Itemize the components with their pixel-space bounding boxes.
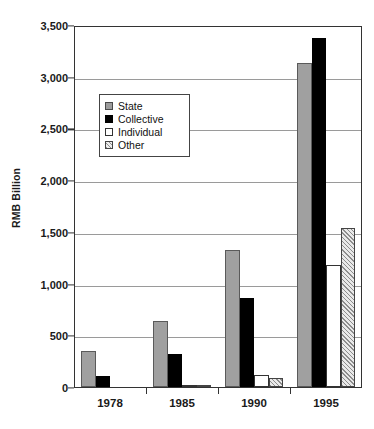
legend-item-individual: Individual [105,125,183,138]
y-tick-mark [68,77,74,78]
chart-legend: State Collective Individual Other [99,94,190,157]
y-tick-label: 2,500 [8,123,68,135]
y-tick-mark [68,129,74,130]
y-tick-label: 500 [8,330,68,342]
bar-collective-1995 [312,38,327,387]
y-tick-mark [68,336,74,337]
legend-item-other: Other [105,138,183,151]
y-tick-mark [68,387,74,388]
bar-state-1985 [153,321,168,387]
y-tick-mark [68,25,74,26]
bar-state-1995 [297,63,312,387]
bar-other-1990 [269,378,284,387]
legend-swatch-individual-icon [105,128,113,136]
bar-chart: RMB Billion 05001,0001,5002,0002,5003,00… [0,0,374,429]
legend-swatch-state-icon [105,102,113,110]
y-tick-label: 3,500 [8,20,68,32]
legend-label-state: State [118,100,143,112]
bar-individual-1990 [254,375,269,387]
x-tick-mark [290,388,291,394]
y-tick-label: 0 [8,382,68,394]
legend-label-collective: Collective [118,113,164,125]
legend-swatch-collective-icon [105,115,113,123]
y-tick-label: 3,000 [8,72,68,84]
x-tick-label-1985: 1985 [147,397,217,409]
legend-label-other: Other [118,139,144,151]
y-tick-label: 2,000 [8,175,68,187]
legend-item-collective: Collective [105,112,183,125]
bar-collective-1985 [168,354,183,387]
y-tick-mark [68,181,74,182]
x-tick-mark [146,388,147,394]
y-tick-mark [68,232,74,233]
plot-area [74,26,362,388]
y-tick-label: 1,000 [8,279,68,291]
bar-state-1990 [225,250,240,387]
bar-collective-1990 [240,298,255,387]
y-tick-label: 1,500 [8,227,68,239]
x-tick-label-1995: 1995 [291,397,361,409]
x-tick-mark [218,388,219,394]
bar-collective-1978 [96,376,111,387]
legend-label-individual: Individual [118,126,162,138]
bar-other-1985 [197,385,212,387]
legend-swatch-other-icon [105,141,113,149]
bar-state-1978 [81,351,96,387]
x-tick-label-1990: 1990 [219,397,289,409]
bar-individual-1995 [326,265,341,387]
x-tick-label-1978: 1978 [75,397,145,409]
y-tick-mark [68,284,74,285]
legend-item-state: State [105,99,183,112]
bar-individual-1985 [182,385,197,387]
bar-other-1995 [341,228,356,387]
